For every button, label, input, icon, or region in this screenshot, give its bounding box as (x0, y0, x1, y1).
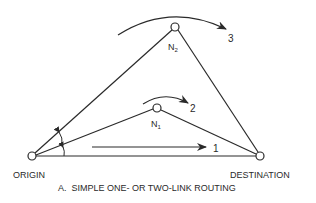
link-origin-n2 (35, 30, 172, 153)
origin-label: ORIGIN (13, 170, 45, 180)
destination-label: DESTINATION (230, 170, 290, 180)
node-n1-label-sub: 1 (158, 124, 162, 130)
routing-diagram: 3 2 1 N2 N1 ORIGIN DESTINATION A. SIMPLE… (0, 0, 316, 203)
node-n1 (153, 104, 161, 112)
route-2-arrow (143, 97, 188, 104)
node-destination (256, 152, 264, 160)
node-n2 (171, 23, 179, 31)
node-n2-label: N2 (168, 42, 179, 53)
route-2-label: 2 (190, 103, 196, 114)
links (35, 30, 258, 156)
node-origin (28, 152, 36, 160)
diagram-caption: A. SIMPLE ONE- OR TWO-LINK ROUTING (58, 183, 236, 193)
link-n2-destination (178, 30, 258, 152)
angle-arc-lower (63, 147, 64, 156)
angle-arc-upper (59, 132, 62, 144)
route-1-label: 1 (213, 143, 219, 154)
node-n2-label-sub: 2 (175, 47, 179, 53)
node-n1-label: N1 (151, 119, 162, 130)
link-origin-n1 (36, 109, 153, 155)
route-3-label: 3 (228, 33, 234, 44)
